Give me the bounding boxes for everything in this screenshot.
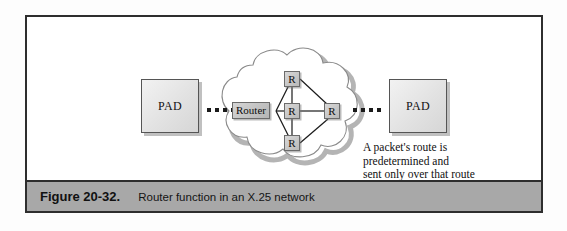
link-dot: [223, 108, 227, 112]
router-mesh: Router R R R R: [232, 71, 352, 151]
router-label-box: Router: [232, 102, 270, 119]
router-node-center-label: R: [288, 106, 295, 117]
router-node-right-label: R: [328, 106, 335, 117]
link-dot: [207, 108, 211, 112]
link-dot: [353, 108, 357, 112]
router-node-right: R: [324, 103, 340, 119]
router-node-top-label: R: [288, 74, 295, 85]
link-dot: [377, 108, 381, 112]
annotation-line-1: A packet's route is: [363, 141, 543, 155]
pad-box-left: PAD: [141, 79, 199, 133]
figure-caption-bar: Figure 20-32. Router function in an X.25…: [27, 180, 541, 211]
figure-caption: Router function in an X.25 network: [138, 191, 314, 203]
link-dot: [361, 108, 365, 112]
pad-right-label: PAD: [406, 99, 430, 114]
annotation-line-2: predetermined and: [363, 155, 543, 169]
figure-number: Figure 20-32.: [40, 189, 120, 204]
router-node-top: R: [284, 71, 300, 87]
pad-box-right: PAD: [389, 79, 447, 133]
dotted-link-left: [207, 108, 235, 112]
annotation-text: A packet's route is predetermined and se…: [363, 141, 543, 182]
router-label: Router: [236, 105, 266, 116]
pad-left-label: PAD: [158, 99, 182, 114]
dotted-link-right: [353, 108, 381, 112]
link-dot: [369, 108, 373, 112]
router-node-bottom-label: R: [288, 138, 295, 149]
diagram-canvas: PAD PAD: [27, 17, 541, 180]
router-node-bottom: R: [284, 135, 300, 151]
figure-frame: PAD PAD: [25, 15, 543, 213]
router-node-center: R: [284, 103, 300, 119]
link-dot: [215, 108, 219, 112]
